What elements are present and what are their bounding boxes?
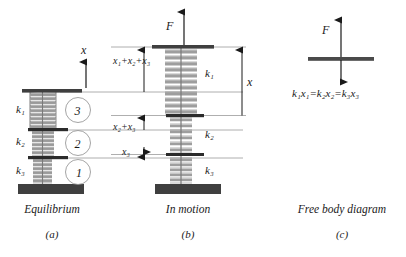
panel-b-plate-2 (166, 114, 204, 117)
panel-a-circle-label-1: 1 (76, 166, 82, 181)
panel-b-k2-label: k₂ (205, 129, 214, 140)
panel-a-k1-label: k₁ (16, 104, 25, 115)
panel-b-k1-label: k₁ (205, 68, 214, 79)
panel-b-top-plate (152, 45, 214, 49)
panel-b-spring-k1 (165, 48, 197, 116)
panel-a-circle-label-2: 2 (75, 137, 81, 152)
panel-b-displacement-label: x (247, 76, 252, 88)
panel-b-id: (b) (130, 228, 246, 240)
panel-c-id: (c) (278, 228, 406, 240)
panel-a-top-plate (22, 89, 82, 93)
panel-a-spring-k1 (30, 92, 56, 130)
panel-b-spring-k2 (170, 116, 192, 155)
panel-b-spring-k3 (170, 155, 192, 186)
panel-c-force-label: F (322, 24, 329, 36)
panel-b-force-label: F (166, 20, 173, 32)
panel-c-equation: k₁x₁=k₂x₂=k₃x₃ (292, 88, 359, 99)
figure-canvas (0, 0, 406, 257)
panel-b-k3-label: k₃ (205, 165, 214, 176)
panel-a-caption: Equilibrium (0, 203, 104, 215)
springs-in-series-figure: x k₁ k₂ k₃ 3 2 1 Equilibrium (a) F x₁+x₂… (0, 0, 406, 257)
panel-a-plate-3 (28, 156, 68, 159)
panel-b-dim-label-3: x₃ (122, 147, 130, 157)
panel-a-plate-2 (28, 128, 68, 131)
panel-a-circle-label-3: 3 (75, 104, 81, 119)
panel-a-ground-base (18, 184, 84, 194)
panel-b-caption: In motion (130, 203, 246, 215)
panel-b-plate-3 (166, 153, 204, 156)
panel-a-spring-k3 (33, 158, 52, 186)
panel-a-k2-label: k₂ (16, 136, 25, 147)
panel-a-x-axis-label: x (81, 44, 86, 56)
panel-b-dim-label-2: x₂+x₃ (113, 122, 136, 132)
panel-b-dim-label-1: x₁+x₂+x₃ (113, 56, 150, 66)
panel-a-k3-label: k₃ (16, 165, 25, 176)
panel-b-ground-base (155, 184, 221, 194)
panel-a-id: (a) (0, 228, 104, 240)
panel-a-spring-k2 (32, 130, 54, 158)
panel-c-caption: Free body diagram (278, 203, 406, 215)
